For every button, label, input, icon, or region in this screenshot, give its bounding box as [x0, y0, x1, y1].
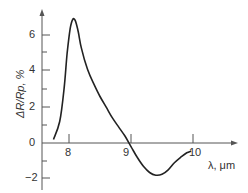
x-tick-label-9: 9: [123, 147, 129, 158]
y-ticks: [42, 35, 50, 178]
x-tick-label-10: 10: [189, 147, 201, 158]
x-axis-label: λ, μm: [208, 160, 235, 171]
y-tick-label-6: 6: [29, 29, 35, 40]
y-axis-arrow-icon: [40, 9, 45, 16]
y-axis-label: ΔR/Rp, %: [14, 70, 26, 118]
chart: 6 4 2 0 −2 8 9 10 λ, μm ΔR/Rp, %: [0, 0, 248, 193]
y-tick-label-0: 0: [29, 137, 35, 148]
y-tick-label-neg2: −2: [25, 172, 38, 183]
y-tick-label-2: 2: [29, 101, 35, 112]
y-tick-label-4: 4: [29, 64, 35, 75]
x-axis-arrow-icon: [231, 141, 238, 146]
x-tick-label-8: 8: [65, 147, 71, 158]
x-ticks: [69, 134, 193, 143]
